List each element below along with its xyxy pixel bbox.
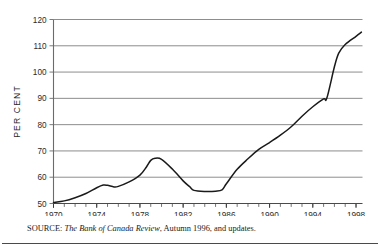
y-axis-tick-label: 70 — [37, 147, 47, 156]
y-axis-tick-label: 80 — [37, 121, 47, 130]
y-axis-ticks-group — [50, 20, 54, 204]
source-publication: The Bank of Canada Review — [64, 224, 159, 233]
figure-container: 5060708090100110120 19701974197819821986… — [0, 0, 380, 252]
source-rest: , Autumn 1996, and updates. — [160, 224, 256, 233]
y-axis-tick-label: 50 — [37, 200, 47, 209]
y-axis-tick-label: 120 — [33, 16, 47, 25]
bottom-divider — [2, 243, 378, 244]
line-chart-svg: 5060708090100110120 19701974197819821986… — [0, 0, 380, 216]
y-axis-tick-labels-group: 5060708090100110120 — [33, 16, 47, 209]
y-axis-title: PER CENT — [12, 85, 22, 138]
source-note-block: SOURCE: The Bank of Canada Review, Autum… — [0, 216, 380, 252]
gridlines-group — [54, 20, 363, 178]
source-label: SOURCE: — [27, 224, 64, 233]
y-axis-tick-label: 60 — [37, 173, 47, 182]
y-axis-tick-label: 110 — [33, 42, 46, 51]
y-axis-tick-label: 100 — [33, 68, 47, 77]
source-note: SOURCE: The Bank of Canada Review, Autum… — [27, 224, 256, 233]
chart-plot-area: 5060708090100110120 19701974197819821986… — [0, 0, 380, 216]
y-axis-tick-label: 90 — [37, 94, 47, 103]
